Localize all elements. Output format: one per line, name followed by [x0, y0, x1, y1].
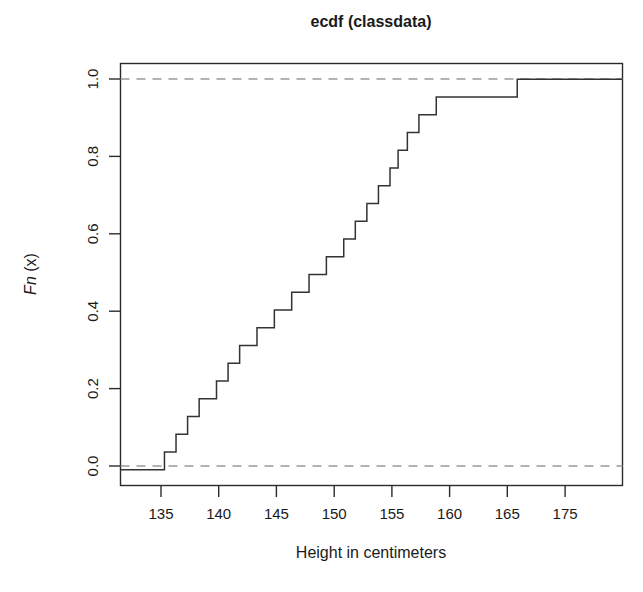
ecdf-figure: ecdf (classdata) 135 140 145 150 155 160…	[0, 0, 643, 592]
y-tick-label-4: 0.8	[84, 146, 101, 167]
y-tick-label-3: 0.6	[84, 223, 101, 244]
x-tick-label-5: 160	[437, 505, 462, 522]
x-tick-label-7: 175	[553, 505, 578, 522]
x-axis-title: Height in centimeters	[296, 544, 446, 561]
x-tick-label-4: 155	[379, 505, 404, 522]
ecdf-plot-svg: ecdf (classdata) 135 140 145 150 155 160…	[0, 0, 643, 592]
page-title: ecdf (classdata)	[311, 13, 432, 30]
x-tick-label-3: 150	[322, 505, 347, 522]
y-axis-title-x: (x)	[22, 253, 39, 276]
y-tick-label-1: 0.2	[84, 378, 101, 399]
y-tick-label-2: 0.4	[84, 301, 101, 322]
y-axis-title-group: Fn (x)	[22, 253, 39, 295]
x-tick-label-0: 135	[148, 505, 173, 522]
x-tick-label-6: 165	[495, 505, 520, 522]
y-axis-title-fn: Fn	[22, 276, 39, 295]
y-tick-label-5: 1.0	[84, 69, 101, 90]
x-tick-label-1: 140	[206, 505, 231, 522]
y-tick-label-0: 0.0	[84, 456, 101, 477]
y-axis-title: Fn (x)	[22, 253, 39, 295]
x-tick-label-2: 145	[264, 505, 289, 522]
